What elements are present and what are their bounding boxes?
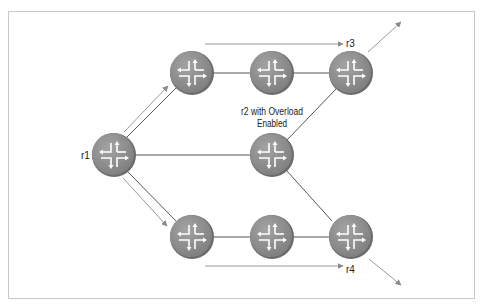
router-r3 — [329, 51, 373, 95]
label-r3: r3 — [346, 38, 355, 49]
router-bot1 — [170, 215, 214, 259]
links — [127, 73, 336, 237]
router-top1 — [170, 51, 214, 95]
router-r1 — [92, 133, 136, 177]
link-r1-bot1 — [128, 172, 176, 221]
network-diagram: r1 r3 r4 r2 with Overload Enabled — [0, 0, 483, 306]
label-r1: r1 — [81, 150, 90, 161]
router-bot2 — [250, 215, 294, 259]
label-r2-line2: Enabled — [257, 118, 287, 129]
label-r2-line1: r2 with Overload — [241, 106, 303, 117]
flow-arrow-r3-exit — [368, 22, 401, 52]
flow-arrow-r1-bot1 — [123, 178, 167, 226]
router-r2 — [250, 133, 294, 177]
router-r4 — [329, 215, 373, 259]
flow-arrow-r4-exit — [369, 259, 401, 285]
flow-arrow-r1-top1 — [124, 86, 168, 132]
router-top2 — [250, 51, 294, 95]
link-r2-r4 — [287, 171, 332, 221]
link-r1-top1 — [127, 88, 176, 137]
label-r4: r4 — [346, 264, 355, 275]
